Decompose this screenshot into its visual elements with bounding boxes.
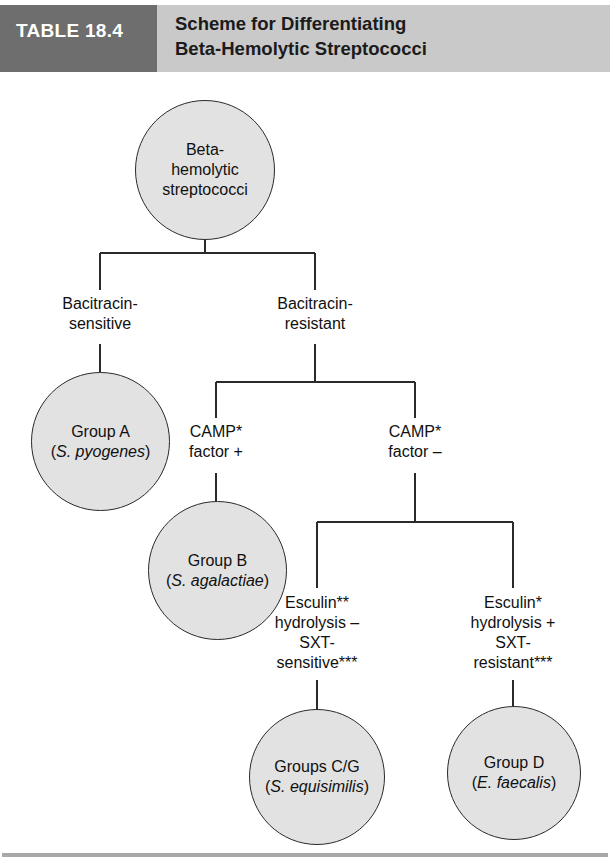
branch-label-camp-factor-negative: CAMP* factor –: [345, 422, 485, 462]
branch-label-esculin-positive-line-3: SXT-: [433, 633, 593, 653]
node-beta-hemolytic-streptococci[interactable]: Beta- hemolytic streptococci: [135, 100, 275, 240]
branch-label-camp-positive-line-2: factor +: [146, 442, 286, 462]
node-groups-c-g-line-2: (S. equisimilis): [265, 777, 369, 797]
branch-label-camp-positive-line-1: CAMP*: [146, 422, 286, 442]
branch-label-bacitracin-sensitive-line-2: sensitive: [20, 314, 180, 334]
branch-label-bacitracin-resistant-line-2: resistant: [235, 314, 395, 334]
node-group-d-line-1: Group D: [472, 753, 556, 773]
node-root-line-2: hemolytic: [162, 160, 247, 180]
node-group-a-label: Group A (S. pyogenes): [45, 422, 157, 462]
paren-close: ): [264, 572, 269, 589]
branch-label-camp-negative-line-2: factor –: [345, 442, 485, 462]
paren-close: ): [364, 778, 369, 795]
paren-close: ): [551, 774, 556, 791]
branch-label-esculin-negative-line-3: SXT-: [237, 633, 397, 653]
species-name: S. equisimilis: [270, 778, 363, 795]
branch-label-bacitracin-resistant-line-1: Bacitracin-: [235, 294, 395, 314]
branch-label-camp-negative-line-1: CAMP*: [345, 422, 485, 442]
table-title-line-2: Beta-Hemolytic Streptococci: [175, 36, 595, 61]
node-root-line-3: streptococci: [162, 180, 247, 200]
branch-label-camp-factor-positive: CAMP* factor +: [146, 422, 286, 462]
node-group-d[interactable]: Group D (E. faecalis): [447, 706, 581, 840]
node-groups-c-g-line-1: Groups C/G: [265, 757, 369, 777]
branch-label-bacitracin-resistant: Bacitracin- resistant: [235, 294, 395, 334]
species-name: E. faecalis: [477, 774, 551, 791]
branch-label-esculin-negative-line-2: hydrolysis –: [237, 613, 397, 633]
node-group-a-line-1: Group A: [51, 422, 151, 442]
branch-label-esculin-negative: Esculin** hydrolysis – SXT- sensitive***: [237, 593, 397, 673]
branch-label-esculin-positive-line-1: Esculin*: [433, 593, 593, 613]
node-group-b-line-1: Group B: [166, 551, 269, 571]
node-group-d-label: Group D (E. faecalis): [466, 753, 562, 793]
bottom-divider: [2, 853, 608, 857]
node-groups-c-g-label: Groups C/G (S. equisimilis): [259, 757, 375, 797]
branch-label-bacitracin-sensitive-line-1: Bacitracin-: [20, 294, 180, 314]
node-group-d-line-2: (E. faecalis): [472, 773, 556, 793]
branch-label-esculin-positive-line-4: resistant***: [433, 653, 593, 673]
species-name: S. agalactiae: [171, 572, 264, 589]
table-title: Scheme for Differentiating Beta-Hemolyti…: [175, 11, 595, 61]
node-group-b-line-2: (S. agalactiae): [166, 571, 269, 591]
branch-label-esculin-positive: Esculin* hydrolysis + SXT- resistant***: [433, 593, 593, 673]
table-number-label: TABLE 18.4: [16, 20, 123, 42]
species-name: S. pyogenes: [56, 443, 145, 460]
node-root-line-1: Beta-: [162, 140, 247, 160]
branch-label-esculin-positive-line-2: hydrolysis +: [433, 613, 593, 633]
node-group-b-label: Group B (S. agalactiae): [160, 551, 275, 591]
branch-label-bacitracin-sensitive: Bacitracin- sensitive: [20, 294, 180, 334]
node-beta-hemolytic-streptococci-label: Beta- hemolytic streptococci: [156, 140, 253, 200]
node-groups-c-g[interactable]: Groups C/G (S. equisimilis): [249, 709, 385, 845]
table-title-line-1: Scheme for Differentiating: [175, 11, 595, 36]
branch-label-esculin-negative-line-1: Esculin**: [237, 593, 397, 613]
branch-label-esculin-negative-line-4: sensitive***: [237, 653, 397, 673]
node-group-a-line-2: (S. pyogenes): [51, 442, 151, 462]
flowchart: Beta- hemolytic streptococci Group A (S.…: [0, 72, 610, 853]
